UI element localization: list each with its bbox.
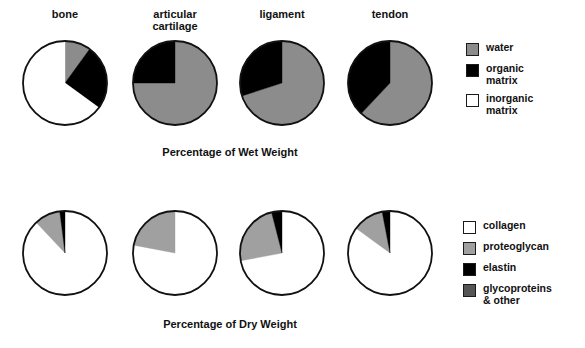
- figure-tissue-composition: bone articular cartilage ligament tendon…: [0, 0, 585, 348]
- legend-dry-item: collagen: [463, 220, 552, 234]
- legend-wet-label: water: [486, 42, 513, 54]
- column-label-bone: bone: [10, 8, 120, 20]
- pie-dry-tendon: [345, 208, 435, 298]
- pie-dry-ligament: [237, 208, 327, 298]
- legend-dry-item: elastin: [463, 262, 552, 276]
- legend-dry-swatch-icon: [463, 284, 476, 297]
- pie-wet-bone: [20, 38, 110, 128]
- legend-wet-item: inorganic matrix: [466, 93, 533, 116]
- pie-wet-articular-cartilage: [130, 38, 220, 128]
- column-label-tendon: tendon: [335, 8, 445, 20]
- pie-wet-tendon: [345, 38, 435, 128]
- legend-wet-label: organic matrix: [486, 63, 524, 86]
- legend-wet-item: organic matrix: [466, 63, 533, 86]
- caption-dry-weight: Percentage of Dry Weight: [0, 318, 460, 330]
- legend-wet-swatch-icon: [466, 94, 479, 107]
- legend-wet-item: water: [466, 42, 533, 56]
- legend-dry-swatch-icon: [463, 221, 476, 234]
- legend-wet-label: inorganic matrix: [486, 93, 533, 116]
- legend-dry-label: collagen: [483, 220, 526, 232]
- legend-dry-label: proteoglycan: [483, 241, 549, 253]
- legend-wet-swatch-icon: [466, 64, 479, 77]
- legend-wet-weight: waterorganic matrixinorganic matrix: [466, 42, 533, 123]
- pie-dry-bone: [20, 208, 110, 298]
- caption-wet-weight: Percentage of Wet Weight: [0, 146, 460, 158]
- legend-dry-label: glycoproteins & other: [483, 283, 552, 306]
- legend-dry-weight: collagenproteoglycanelastinglycoproteins…: [463, 220, 552, 313]
- pie-dry-articular-cartilage: [130, 208, 220, 298]
- legend-dry-item: proteoglycan: [463, 241, 552, 255]
- legend-dry-swatch-icon: [463, 263, 476, 276]
- column-label-articular-cartilage: articular cartilage: [120, 8, 230, 32]
- legend-wet-swatch-icon: [466, 43, 479, 56]
- legend-dry-item: glycoproteins & other: [463, 283, 552, 306]
- column-label-ligament: ligament: [227, 8, 337, 20]
- pie-wet-ligament: [237, 38, 327, 128]
- legend-dry-swatch-icon: [463, 242, 476, 255]
- legend-dry-label: elastin: [483, 262, 516, 274]
